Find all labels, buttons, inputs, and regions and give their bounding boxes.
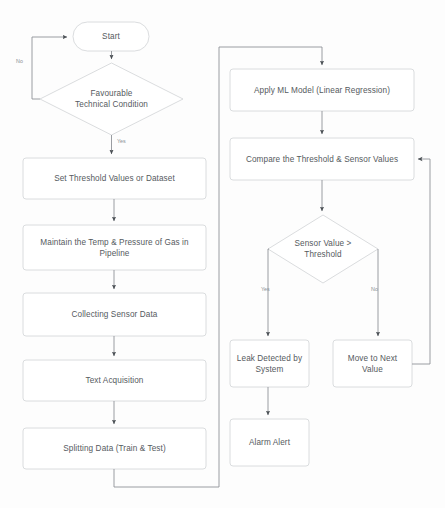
flowchart-connectors-layer	[0, 0, 445, 508]
node-shape-compare-threshold-sensor	[230, 138, 414, 180]
node-shape-text-acquisition	[23, 360, 206, 401]
flowchart-canvas: Start Favourable Technical Condition Set…	[0, 0, 445, 508]
node-shape-leak-detected	[230, 340, 309, 387]
node-shape-start	[73, 22, 149, 51]
node-shape-maintain-temp-pressure	[23, 225, 206, 270]
node-shape-splitting-data	[23, 428, 206, 469]
node-shape-move-to-next-value	[333, 340, 412, 387]
node-shape-sensor-value-threshold	[268, 215, 378, 283]
edge-move-next-to-compare	[412, 159, 430, 364]
node-shape-apply-ml-model	[230, 69, 414, 111]
node-shape-alarm-alert	[230, 419, 309, 466]
node-shape-collecting-sensor-data	[23, 293, 206, 336]
node-shape-favourable-technical-condition	[40, 63, 183, 135]
node-shape-set-threshold-values	[23, 158, 206, 199]
